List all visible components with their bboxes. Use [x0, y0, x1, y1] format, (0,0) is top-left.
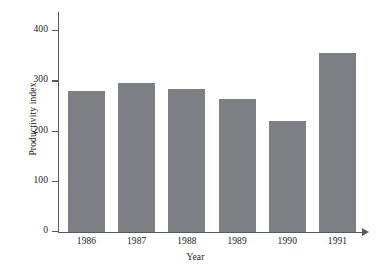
x-axis-title: Year — [0, 252, 391, 262]
y-axis-tick — [52, 231, 59, 232]
bar-chart: 0100200300400 198619871988198919901991 P… — [0, 0, 391, 274]
bar-1986 — [68, 91, 105, 232]
x-axis-tick-label: 1991 — [313, 236, 363, 246]
y-axis-tick — [52, 131, 59, 132]
x-axis-tick-label: 1986 — [62, 236, 112, 246]
x-axis-arrow-icon — [362, 228, 369, 236]
y-axis-line — [58, 12, 59, 233]
y-axis-tick — [52, 30, 59, 31]
bar-1987 — [118, 83, 155, 231]
x-axis-tick-label: 1989 — [212, 236, 262, 246]
y-axis-title: Productivity index — [28, 39, 38, 199]
bar-1989 — [219, 99, 256, 232]
x-axis-line — [58, 232, 363, 233]
plot-area: 0100200300400 198619871988198919901991 — [0, 0, 391, 274]
bar-1988 — [168, 89, 205, 232]
bar-1990 — [269, 121, 306, 232]
x-axis-tick-label: 1988 — [162, 236, 212, 246]
y-axis-tick-label: 0 — [8, 225, 48, 235]
x-axis-tick-label: 1987 — [112, 236, 162, 246]
bar-1991 — [319, 53, 356, 232]
y-axis-tick-label: 400 — [8, 24, 48, 34]
y-axis-tick — [52, 181, 59, 182]
x-axis-tick-label: 1990 — [262, 236, 312, 246]
y-axis-tick — [52, 80, 59, 81]
